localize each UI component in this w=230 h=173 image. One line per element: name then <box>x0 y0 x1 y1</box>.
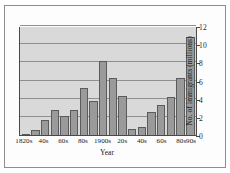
x-axis: 1820s40s60s80s1900s20s40s60s80s90s <box>19 137 195 148</box>
x-tick-label: 60s <box>58 137 68 145</box>
x-tick-label: 40s <box>137 137 147 145</box>
bar <box>22 134 30 135</box>
bar <box>167 97 175 135</box>
bar <box>41 120 49 135</box>
x-tick-label: 20s <box>117 137 127 145</box>
bar <box>109 78 117 135</box>
y-axis-title: No. of immigrants (millions) <box>185 36 194 125</box>
x-tick-label: 90s <box>186 137 196 145</box>
bar <box>157 105 165 135</box>
bar <box>51 110 59 135</box>
x-tick-label: 60s <box>157 137 167 145</box>
gridline <box>20 25 196 26</box>
bar <box>60 116 68 135</box>
bar <box>99 61 107 135</box>
bar-series <box>20 27 196 135</box>
x-axis-title: Year <box>100 148 114 157</box>
x-tick-label: 40s <box>39 137 49 145</box>
x-tick-label: 80s <box>78 137 88 145</box>
bar <box>128 129 136 135</box>
bar <box>70 110 78 135</box>
bar <box>80 88 88 135</box>
bar <box>118 96 126 135</box>
bar <box>31 130 39 135</box>
plot-area <box>19 27 196 136</box>
bar <box>89 101 97 135</box>
bar <box>147 112 155 135</box>
chart-figure: 024681012 No. of immigrants (millions) 1… <box>0 0 230 173</box>
x-tick-label: 1820s <box>15 137 32 145</box>
x-tick-label: 1900s <box>94 137 111 145</box>
bar <box>138 127 146 135</box>
x-tick-label: 80s <box>176 137 186 145</box>
